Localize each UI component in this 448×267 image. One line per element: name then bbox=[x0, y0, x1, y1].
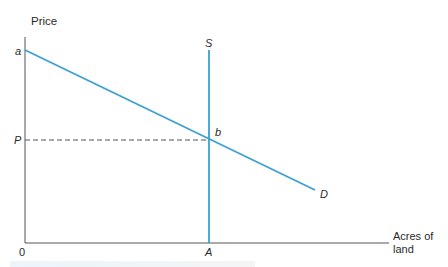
point-a-label: a bbox=[15, 45, 21, 57]
x-axis-label-line1: Acres of bbox=[393, 230, 433, 242]
demand-d-label: D bbox=[320, 188, 328, 200]
supply-s-label: S bbox=[205, 37, 212, 49]
supply-demand-land-diagram: Price a P S b D 0 A Acres of land bbox=[0, 0, 448, 267]
x-axis-label-line2: land bbox=[393, 243, 414, 255]
diagram-canvas bbox=[0, 0, 448, 267]
price-p-label: P bbox=[14, 134, 21, 146]
demand-line bbox=[25, 50, 315, 190]
cropped-caption bbox=[10, 261, 255, 267]
point-b-label: b bbox=[215, 126, 221, 138]
quantity-a-label: A bbox=[205, 246, 212, 258]
origin-label: 0 bbox=[19, 246, 25, 258]
y-axis-label: Price bbox=[31, 15, 57, 27]
